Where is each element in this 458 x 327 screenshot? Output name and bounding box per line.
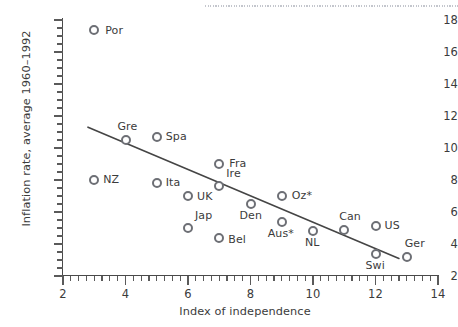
data-point-label: Can [339, 210, 361, 223]
data-point-marker [402, 252, 412, 262]
x-tick-minor [141, 276, 142, 281]
x-tick-minor [133, 276, 134, 281]
x-tick-label: 8 [236, 287, 266, 301]
x-tick-major [187, 276, 188, 285]
x-tick-minor [266, 276, 267, 281]
data-point-label: NL [305, 236, 320, 249]
x-tick-minor [226, 276, 227, 281]
x-tick-major [312, 276, 313, 285]
scan-artifact-line [205, 5, 458, 7]
data-point-marker [246, 199, 256, 209]
x-tick-major [62, 276, 63, 285]
x-tick-minor [391, 276, 392, 281]
x-tick-label: 10 [298, 287, 328, 301]
data-point-label: Bel [228, 233, 246, 246]
x-tick-minor [70, 276, 71, 281]
data-point-marker [339, 225, 349, 235]
data-point-label: Gre [118, 120, 138, 133]
x-tick-minor [117, 276, 118, 281]
data-point-label: Oz* [292, 189, 312, 202]
x-tick-minor [164, 276, 165, 281]
x-tick-minor [398, 276, 399, 281]
data-point-marker [183, 191, 193, 201]
x-tick-major [250, 276, 251, 285]
x-tick-minor [195, 276, 196, 281]
x-tick-label: 14 [423, 287, 453, 301]
y-tick-major [54, 51, 63, 52]
x-tick-minor [203, 276, 204, 281]
data-point-label: Jap [195, 209, 212, 222]
x-tick-minor [234, 276, 235, 281]
x-tick-label: 4 [111, 287, 141, 301]
data-point-marker [371, 221, 381, 231]
x-tick-minor [367, 276, 368, 281]
x-tick-minor [281, 276, 282, 281]
x-tick-minor [328, 276, 329, 281]
y-tick-major [54, 211, 63, 212]
x-tick-major [375, 276, 376, 285]
data-point-marker [152, 178, 162, 188]
data-point-label: Den [240, 209, 263, 222]
y-tick-major [54, 243, 63, 244]
data-point-marker [371, 249, 381, 259]
data-point-label: Ger [405, 237, 425, 250]
data-point-label: Por [105, 24, 123, 37]
x-tick-minor [258, 276, 259, 281]
data-point-label: Ire [226, 167, 241, 180]
data-point-label: NZ [103, 173, 119, 186]
x-tick-minor [94, 276, 95, 281]
data-point-label: UK [197, 190, 212, 203]
x-tick-minor [219, 276, 220, 281]
data-point-label: Ita [166, 176, 181, 189]
data-point-marker [152, 132, 162, 142]
x-tick-minor [148, 276, 149, 281]
y-tick-major [54, 19, 63, 20]
x-tick-label: 2 [48, 287, 78, 301]
x-tick-minor [297, 276, 298, 281]
x-tick-label: 6 [173, 287, 203, 301]
x-tick-minor [336, 276, 337, 281]
x-tick-label: 12 [361, 287, 391, 301]
data-point-marker [277, 217, 287, 227]
plot-area [63, 20, 438, 276]
data-point-marker [121, 135, 131, 145]
data-point-label: US [385, 219, 400, 232]
x-tick-minor [86, 276, 87, 281]
x-tick-minor [305, 276, 306, 281]
y-axis-title: Inflation rate, average 1960–1992 [20, 24, 33, 234]
x-tick-minor [180, 276, 181, 281]
x-tick-minor [109, 276, 110, 281]
x-tick-minor [344, 276, 345, 281]
x-tick-major [125, 276, 126, 285]
x-tick-minor [242, 276, 243, 281]
data-point-label: Spa [166, 130, 187, 143]
y-tick-major [54, 83, 63, 84]
x-tick-minor [289, 276, 290, 281]
x-tick-minor [156, 276, 157, 281]
x-tick-minor [383, 276, 384, 281]
data-point-marker [183, 223, 193, 233]
x-tick-minor [101, 276, 102, 281]
x-tick-minor [359, 276, 360, 281]
x-tick-minor [78, 276, 79, 281]
data-point-marker [277, 191, 287, 201]
scatter-plot-figure: 24681012141618 2468101214 Inflation rate… [0, 0, 458, 327]
x-tick-minor [273, 276, 274, 281]
x-axis-title: Index of independence [0, 305, 458, 318]
y-tick-major [54, 115, 63, 116]
y-tick-major [54, 179, 63, 180]
x-tick-minor [320, 276, 321, 281]
x-tick-minor [406, 276, 407, 281]
data-point-marker [89, 25, 99, 35]
x-tick-minor [172, 276, 173, 281]
data-point-label: Aus* [268, 227, 294, 240]
x-tick-minor [211, 276, 212, 281]
data-point-marker [214, 233, 224, 243]
x-tick-minor [351, 276, 352, 281]
y-tick-major [54, 147, 63, 148]
data-point-label: Swi [366, 259, 385, 272]
